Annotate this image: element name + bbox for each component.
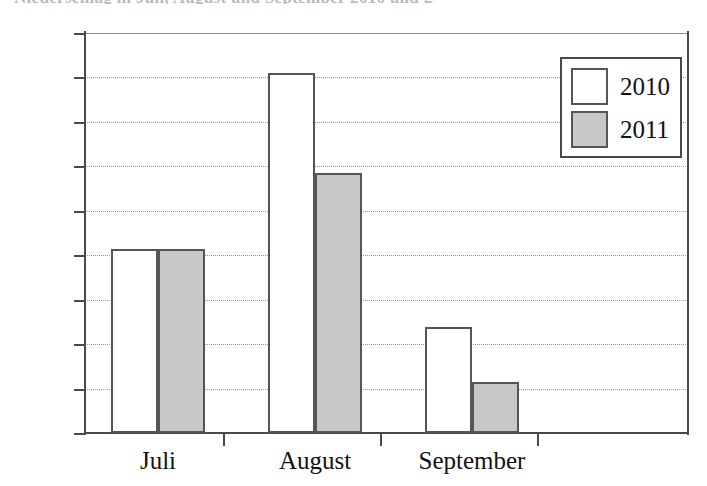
white-square-swatch — [571, 68, 608, 105]
bar-september-2011 — [472, 382, 519, 433]
x-tick-mark — [223, 433, 225, 446]
gridline — [85, 33, 688, 34]
legend-item-2011: 2011 — [571, 111, 679, 148]
x-label-juli: Juli — [68, 447, 248, 475]
bar-september-2010 — [425, 327, 472, 433]
x-label-august: August — [225, 447, 405, 475]
x-tick-mark — [380, 433, 382, 446]
gridline — [85, 211, 688, 212]
legend: 2010 2011 — [560, 57, 682, 158]
legend-label-2010: 2010 — [620, 71, 670, 102]
cropped-heading-remnant: Niederschlag in Juli, August und Septemb… — [14, 0, 434, 4]
x-tick-mark — [537, 433, 539, 446]
gray-square-swatch — [571, 111, 608, 148]
y-tick-mark — [74, 33, 85, 35]
y-tick-mark — [74, 344, 85, 346]
gridline — [85, 166, 688, 167]
bar-august-2011 — [315, 173, 362, 433]
y-tick-mark — [74, 211, 85, 213]
y-tick-mark — [74, 300, 85, 302]
legend-item-2010: 2010 — [571, 68, 679, 105]
right-border-line — [687, 31, 689, 435]
y-tick-mark — [74, 122, 85, 124]
bar-juli-2011 — [158, 249, 205, 433]
y-tick-mark — [74, 433, 85, 435]
y-tick-mark — [74, 389, 85, 391]
y-tick-mark — [74, 255, 85, 257]
y-tick-mark — [74, 166, 85, 168]
x-label-september: September — [382, 447, 562, 475]
bar-chart: Niederschlag in Juli, August und Septemb… — [0, 0, 707, 486]
bar-juli-2010 — [111, 249, 158, 433]
y-tick-mark — [74, 77, 85, 79]
bar-august-2010 — [268, 73, 315, 433]
legend-label-2011: 2011 — [620, 114, 669, 145]
y-axis-line — [84, 31, 86, 435]
